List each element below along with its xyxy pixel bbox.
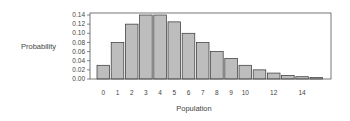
x-tick-label: 5: [172, 89, 176, 96]
x-tick-label: 8: [215, 89, 219, 96]
x-axis: 0123456789101214: [101, 89, 306, 96]
y-axis-label: Probability: [21, 42, 56, 51]
bar-0: [97, 65, 110, 79]
y-tick-label: 0.06: [72, 48, 85, 55]
x-tick-label: 12: [270, 89, 278, 96]
y-tick-label: 0.10: [72, 29, 85, 36]
x-tick-label: 4: [158, 89, 162, 96]
x-tick-label: 10: [242, 89, 250, 96]
bar-7: [196, 42, 209, 79]
bar-5: [168, 22, 181, 79]
y-tick-label: 0.04: [72, 57, 85, 64]
bars: [97, 15, 323, 79]
x-tick-label: 6: [187, 89, 191, 96]
x-tick-label: 14: [298, 89, 306, 96]
bar-9: [225, 58, 238, 79]
x-axis-label: Population: [176, 104, 211, 113]
x-tick-label: 9: [229, 89, 233, 96]
y-axis: 0.000.020.040.060.080.100.120.14: [72, 11, 90, 82]
y-tick-label: 0.00: [72, 75, 85, 82]
bar-11: [253, 70, 266, 79]
x-tick-label: 0: [101, 89, 105, 96]
bar-3: [140, 15, 153, 79]
y-tick-label: 0.14: [72, 11, 85, 18]
y-tick-label: 0.02: [72, 66, 85, 73]
x-tick-label: 2: [130, 89, 134, 96]
bar-6: [182, 33, 195, 79]
bar-4: [154, 15, 167, 79]
x-tick-label: 1: [116, 89, 120, 96]
bar-12: [267, 73, 280, 79]
bar-2: [125, 24, 138, 79]
bar-8: [211, 52, 224, 79]
bar-10: [239, 65, 252, 79]
x-tick-label: 3: [144, 89, 148, 96]
bar-13: [282, 75, 295, 79]
bar-1: [111, 42, 124, 79]
probability-bar-chart: 0.000.020.040.060.080.100.120.14 0123456…: [0, 0, 350, 121]
y-tick-label: 0.12: [72, 20, 85, 27]
y-tick-label: 0.08: [72, 39, 85, 46]
x-tick-label: 7: [201, 89, 205, 96]
